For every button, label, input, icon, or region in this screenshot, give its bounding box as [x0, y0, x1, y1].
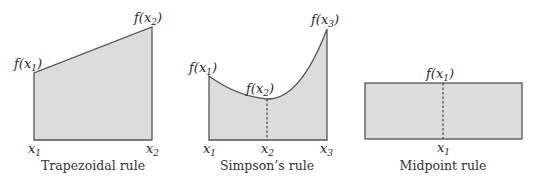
label-x3: x3 — [320, 141, 333, 158]
label-x2: x2 — [261, 141, 274, 158]
numerical-integration-diagram: f(x1) f(x2) x1 x2 Trapezoidal rule f(x1)… — [0, 0, 540, 180]
trapezoidal-panel: f(x1) f(x2) x1 x2 Trapezoidal rule — [13, 10, 162, 173]
trapezoid-shape — [34, 27, 152, 140]
label-x1: x1 — [203, 141, 216, 158]
label-f-x2: f(x2) — [133, 10, 162, 27]
label-f-x1: f(x1) — [425, 66, 454, 83]
label-x1: x1 — [437, 140, 450, 157]
label-f-x1: f(x1) — [13, 56, 42, 73]
label-x2: x2 — [146, 141, 159, 158]
midpoint-panel: f(x1) x1 Midpoint rule — [365, 66, 522, 173]
caption-midpoint: Midpoint rule — [400, 158, 487, 173]
label-x1: x1 — [28, 141, 41, 158]
label-f-x2: f(x2) — [245, 81, 274, 98]
caption-simpson: Simpson’s rule — [220, 158, 314, 173]
label-f-x3: f(x3) — [310, 12, 339, 29]
caption-trapezoidal: Trapezoidal rule — [41, 158, 145, 173]
simpson-panel: f(x1) f(x2) f(x3) x1 x2 x3 Simpson’s rul… — [188, 12, 339, 173]
label-f-x1: f(x1) — [188, 60, 217, 77]
